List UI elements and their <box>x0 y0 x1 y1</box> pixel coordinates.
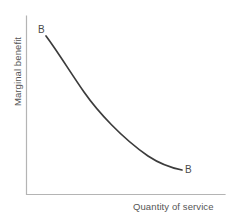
chart-canvas <box>0 0 237 218</box>
y-axis-title: Marginal benefit <box>12 22 23 122</box>
curve-label-b-upper: B <box>38 24 45 35</box>
x-axis-title: Quantity of service <box>133 201 214 212</box>
marginal-benefit-chart: B B Marginal benefit Quantity of service <box>0 0 237 218</box>
curve-label-b-lower: B <box>185 164 192 175</box>
marginal-benefit-curve <box>46 36 182 170</box>
chart-axes <box>27 16 226 195</box>
